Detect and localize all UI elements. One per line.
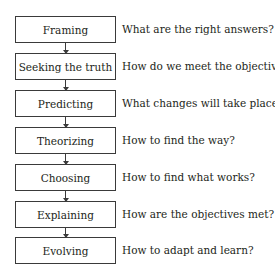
step-question: How to adapt and learn?: [122, 237, 254, 264]
arrow-down-icon: [65, 191, 66, 201]
step-label: Seeking the truth: [19, 61, 113, 73]
step-box-explaining: Explaining: [15, 201, 116, 228]
arrow-down-icon: [65, 43, 66, 53]
arrow-down-icon: [65, 228, 66, 237]
step-label: Explaining: [37, 209, 94, 221]
step-label: Choosing: [41, 172, 91, 184]
arrow-down-icon: [65, 154, 66, 164]
step-question: How to find the way?: [122, 127, 235, 154]
step-label: Evolving: [42, 245, 88, 257]
step-question: What are the right answers?: [122, 16, 274, 43]
step-label: Theorizing: [37, 135, 94, 147]
arrow-down-icon: [65, 80, 66, 90]
step-box-evolving: Evolving: [15, 237, 116, 264]
step-question: How to find what works?: [122, 164, 255, 191]
step-label: Framing: [43, 24, 88, 36]
step-box-seeking-the-truth: Seeking the truth: [15, 53, 116, 80]
step-box-framing: Framing: [15, 16, 116, 43]
step-question: How are the objectives met?: [122, 201, 274, 228]
step-box-choosing: Choosing: [15, 164, 116, 191]
step-question: How do we meet the objectives?: [122, 53, 275, 80]
step-question: What changes will take place?: [122, 90, 275, 117]
step-box-theorizing: Theorizing: [15, 127, 116, 154]
step-box-predicting: Predicting: [15, 90, 116, 117]
arrow-down-icon: [65, 117, 66, 127]
step-label: Predicting: [38, 98, 93, 110]
